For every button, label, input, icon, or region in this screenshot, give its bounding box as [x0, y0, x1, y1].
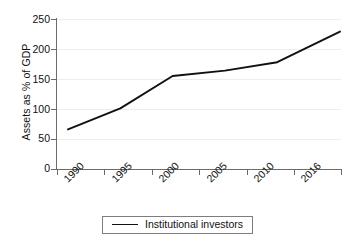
- x-tick-mark: [57, 169, 58, 175]
- legend-line-swatch: [112, 224, 138, 225]
- x-tick-mark: [341, 169, 342, 175]
- legend-item-label: Institutional investors: [145, 219, 243, 230]
- y-tick-label: 50: [20, 133, 50, 144]
- x-tick-mark: [104, 169, 105, 175]
- y-axis-tick-labels: 250 200 150 100 50 0: [16, 0, 50, 243]
- x-tick-mark: [294, 169, 295, 175]
- series-institutional-investors: [57, 19, 341, 169]
- y-tick-label: 200: [20, 44, 50, 55]
- x-tick-mark: [199, 169, 200, 175]
- chart-legend: Institutional investors: [102, 216, 253, 234]
- x-tick-mark: [247, 169, 248, 175]
- x-tick-mark: [152, 169, 153, 175]
- series-line: [68, 32, 340, 130]
- y-tick-label: 150: [20, 74, 50, 85]
- y-tick-label: 100: [20, 104, 50, 115]
- y-tick-label: 250: [20, 14, 50, 25]
- y-tick-label: 0: [20, 163, 50, 174]
- chart-container: Assets as % of GDP 250 200 150 100 50 0 …: [0, 0, 357, 243]
- plot-area: [57, 19, 341, 169]
